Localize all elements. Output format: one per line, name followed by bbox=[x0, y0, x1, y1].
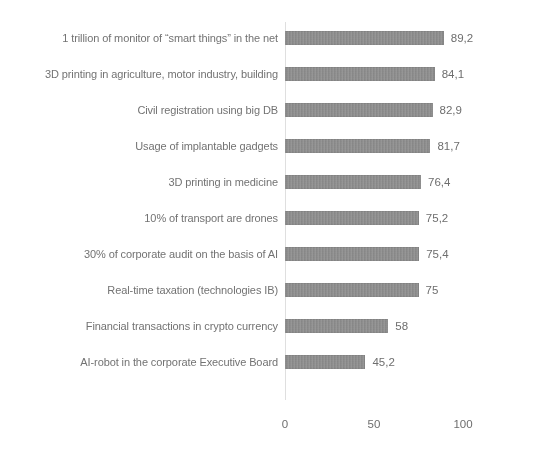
bar-container: 76,4 bbox=[285, 175, 421, 189]
bar bbox=[285, 319, 388, 333]
bar-container: 75,4 bbox=[285, 247, 419, 261]
bar-value-label: 75,4 bbox=[426, 247, 448, 261]
x-tick-label: 0 bbox=[282, 418, 288, 430]
bar bbox=[285, 139, 430, 153]
bar bbox=[285, 211, 419, 225]
bar-container: 75,2 bbox=[285, 211, 419, 225]
bar-value-label: 75,2 bbox=[426, 211, 448, 225]
bar-value-label: 76,4 bbox=[428, 175, 450, 189]
bar-value-label: 89,2 bbox=[451, 31, 473, 45]
bar-container: 75 bbox=[285, 283, 419, 297]
x-tick-label: 100 bbox=[453, 418, 472, 430]
category-label: Real-time taxation (technologies IB) bbox=[107, 272, 278, 308]
bar-container: 84,1 bbox=[285, 67, 435, 81]
bar-row: 3D printing in agriculture, motor indust… bbox=[0, 56, 541, 92]
bar-row: AI-robot in the corporate Executive Boar… bbox=[0, 344, 541, 380]
x-tick-label: 50 bbox=[368, 418, 381, 430]
bar-value-label: 58 bbox=[395, 319, 408, 333]
bar bbox=[285, 355, 365, 369]
bar-value-label: 82,9 bbox=[440, 103, 462, 117]
category-label: Usage of implantable gadgets bbox=[135, 128, 278, 164]
bar-row: 1 trillion of monitor of “smart things” … bbox=[0, 20, 541, 56]
category-label: 3D printing in medicine bbox=[168, 164, 278, 200]
bar-row: 10% of transport are drones75,2 bbox=[0, 200, 541, 236]
bar-chart: 1 trillion of monitor of “smart things” … bbox=[0, 0, 541, 459]
bar-container: 45,2 bbox=[285, 355, 365, 369]
bar-container: 58 bbox=[285, 319, 388, 333]
bar bbox=[285, 283, 419, 297]
bar-value-label: 81,7 bbox=[437, 139, 459, 153]
bar bbox=[285, 103, 433, 117]
category-label: Civil registration using big DB bbox=[137, 92, 278, 128]
category-label: 3D printing in agriculture, motor indust… bbox=[45, 56, 278, 92]
bar bbox=[285, 31, 444, 45]
bar-container: 82,9 bbox=[285, 103, 433, 117]
bar-row: Civil registration using big DB82,9 bbox=[0, 92, 541, 128]
bar-row: 30% of corporate audit on the basis of A… bbox=[0, 236, 541, 272]
bar bbox=[285, 175, 421, 189]
bar-row: 3D printing in medicine76,4 bbox=[0, 164, 541, 200]
bar-row: Financial transactions in crypto currenc… bbox=[0, 308, 541, 344]
category-label: Financial transactions in crypto currenc… bbox=[86, 308, 278, 344]
bar bbox=[285, 67, 435, 81]
category-label: 30% of corporate audit on the basis of A… bbox=[84, 236, 278, 272]
bar-row: Usage of implantable gadgets81,7 bbox=[0, 128, 541, 164]
bar-value-label: 75 bbox=[426, 283, 439, 297]
bar-container: 81,7 bbox=[285, 139, 430, 153]
category-label: 1 trillion of monitor of “smart things” … bbox=[62, 20, 278, 56]
bar bbox=[285, 247, 419, 261]
bar-row: Real-time taxation (technologies IB)75 bbox=[0, 272, 541, 308]
bar-value-label: 45,2 bbox=[372, 355, 394, 369]
x-axis: 050100 bbox=[0, 418, 541, 438]
category-label: AI-robot in the corporate Executive Boar… bbox=[80, 344, 278, 380]
category-label: 10% of transport are drones bbox=[144, 200, 278, 236]
bar-value-label: 84,1 bbox=[442, 67, 464, 81]
bar-container: 89,2 bbox=[285, 31, 444, 45]
